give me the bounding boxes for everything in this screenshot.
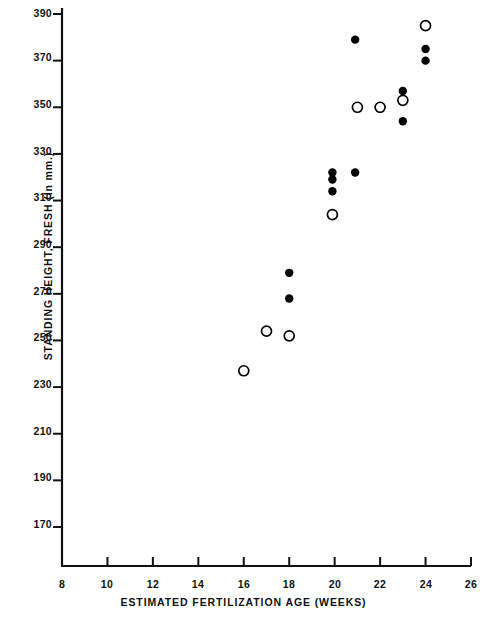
data-point-filled-circle	[328, 175, 336, 183]
data-point-filled-circle	[399, 117, 407, 125]
data-point-open-circle	[421, 21, 431, 31]
plot-canvas	[0, 0, 487, 621]
data-point-filled-circle	[351, 35, 359, 43]
data-point-open-circle	[352, 102, 362, 112]
scatter-plot-figure: STANDING HEIGHT, FRESH (In mm.) ESTIMATE…	[0, 0, 487, 621]
data-point-filled-circle	[421, 56, 429, 64]
data-point-open-circle	[239, 366, 249, 376]
data-point-filled-circle	[285, 294, 293, 302]
axis-lines	[61, 8, 471, 566]
data-markers	[239, 21, 431, 376]
data-point-filled-circle	[399, 87, 407, 95]
data-point-open-circle	[262, 326, 272, 336]
data-point-open-circle	[375, 102, 385, 112]
x-tick-marks	[62, 557, 471, 566]
data-point-filled-circle	[285, 269, 293, 277]
data-point-filled-circle	[351, 168, 359, 176]
data-point-open-circle	[327, 210, 337, 220]
data-point-filled-circle	[421, 45, 429, 53]
data-point-filled-circle	[328, 187, 336, 195]
data-point-open-circle	[398, 95, 408, 105]
data-point-open-circle	[284, 331, 294, 341]
y-tick-marks	[53, 14, 62, 527]
